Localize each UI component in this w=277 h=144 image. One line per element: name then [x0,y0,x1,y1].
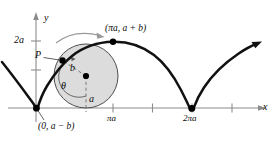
x-tick-label-pi-a: πa [107,114,116,123]
point-origin-cusp-dot [33,105,40,112]
point-P-dot [59,57,65,63]
point-top-dot [110,39,116,45]
radius-b-label: b [70,63,75,73]
angle-theta-label: θ [61,81,66,91]
rotation-arrow-group [56,33,105,43]
rolling-circle-group [54,44,118,112]
radius-a-label: a [89,94,94,104]
y-tick-label-2a: 2a [14,35,24,45]
point-second-cusp-dot [188,105,195,112]
y-axis-label: y [44,13,48,23]
x-axis-label: x [263,102,267,112]
cycloid-figure: y x 2a πa 2πa P b a θ (πa, a + b) (0, a … [0,0,277,144]
origin-point-coords-label: (0, a − b) [38,122,75,132]
rotation-arrow-arc [56,33,100,43]
point-P-label: P [35,50,41,60]
x-tick-label-2pi-a: 2πa [183,114,197,123]
rotation-arrow-head [97,33,105,39]
circle-center-dot [83,73,89,79]
leader-line-P [44,58,60,61]
y-axis-arrowhead [33,12,39,20]
cycloid-arch-left-partial [2,62,36,108]
cycloid-arch-right-partial [194,44,257,108]
top-point-coords-label: (πa, a + b) [105,24,146,34]
leader-line-origin-coords [38,110,45,120]
